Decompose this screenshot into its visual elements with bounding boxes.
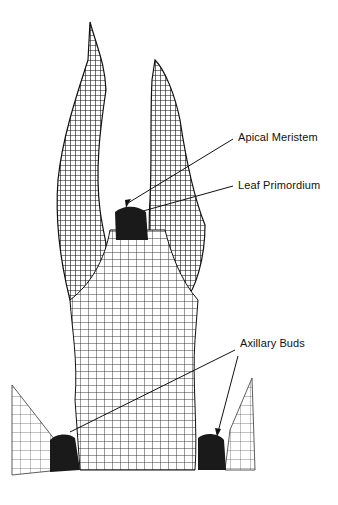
apical-dome xyxy=(115,207,148,240)
label-axillary-buds: Axillary Buds xyxy=(240,337,305,349)
apical-meristem-arrowhead xyxy=(125,199,131,208)
shoot-tip-diagram: Apical Meristem Leaf Primordium Axillary… xyxy=(0,0,338,505)
left-axillary-bud xyxy=(50,434,80,472)
right-lower-leaf xyxy=(225,378,255,470)
label-leaf-primordium: Leaf Primordium xyxy=(238,179,320,191)
shoot-tip-illustration xyxy=(0,0,338,505)
right-axillary-bud xyxy=(198,434,226,470)
label-apical-meristem: Apical Meristem xyxy=(238,131,318,143)
